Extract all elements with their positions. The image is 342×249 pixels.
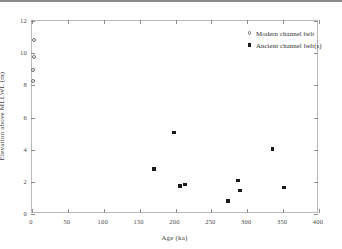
y-tick-label: 0	[13, 210, 27, 217]
y-tick-right	[314, 118, 318, 119]
y-tick-label: 12	[13, 17, 27, 24]
data-point	[183, 183, 186, 186]
data-point	[172, 131, 175, 134]
x-tick	[283, 209, 284, 213]
data-point	[152, 167, 155, 170]
x-tick	[176, 209, 177, 213]
x-tick-top	[176, 20, 177, 24]
y-tick-label: 2	[13, 177, 27, 184]
y-tick-right	[314, 150, 318, 151]
x-tick	[104, 209, 105, 213]
y-tick-label: 8	[13, 81, 27, 88]
figure-top-rule	[0, 0, 342, 2]
x-tick-label: 250	[205, 218, 215, 225]
x-tick-label: 0	[29, 218, 32, 225]
x-tick-top	[247, 20, 248, 24]
x-tick-label: 400	[313, 218, 323, 225]
open-circle-marker-icon	[243, 31, 256, 35]
x-tick-label: 350	[277, 218, 287, 225]
legend-item-modern-channel-belt: Modern channel belt	[243, 27, 335, 39]
x-tick-label: 300	[241, 218, 251, 225]
x-tick-label: 150	[133, 218, 143, 225]
y-tick-right	[314, 214, 318, 215]
y-tick	[31, 214, 35, 215]
x-tick-top	[68, 20, 69, 24]
y-tick-label: 10	[13, 49, 27, 56]
x-axis-title: Age (ka)	[31, 234, 318, 242]
y-tick-label: 6	[13, 113, 27, 120]
legend-item-label: Ancient channel belt(s)	[256, 42, 322, 49]
data-point	[271, 147, 274, 150]
y-tick	[31, 118, 35, 119]
x-tick-label: 50	[63, 218, 70, 225]
y-axis-title: Elevation above MLLWL (m)	[0, 72, 6, 161]
y-tick	[31, 21, 35, 22]
y-tick	[31, 53, 35, 54]
y-tick-right	[314, 21, 318, 22]
x-tick-label: 200	[169, 218, 179, 225]
x-tick-top	[104, 20, 105, 24]
y-tick	[31, 150, 35, 151]
data-point	[236, 179, 239, 182]
x-tick	[140, 209, 141, 213]
data-point	[32, 55, 36, 59]
y-tick-label: 4	[13, 145, 27, 152]
y-tick	[31, 182, 35, 183]
data-point	[32, 38, 36, 42]
chart-legend: Modern channel belt Ancient channel belt…	[243, 27, 335, 51]
x-tick-top	[140, 20, 141, 24]
legend-item-label: Modern channel belt	[256, 30, 314, 37]
filled-square-marker-icon	[243, 43, 256, 46]
data-point	[31, 68, 35, 72]
y-tick	[31, 85, 35, 86]
y-tick-right	[314, 53, 318, 54]
scatter-chart-figure: 050100150200250300350400 024681012 Age (…	[0, 0, 342, 249]
x-tick-label: 100	[98, 218, 108, 225]
y-tick-right	[314, 182, 318, 183]
data-point	[178, 184, 181, 187]
x-tick	[211, 209, 212, 213]
x-tick-top	[319, 20, 320, 24]
x-tick	[319, 209, 320, 213]
x-tick-top	[283, 20, 284, 24]
data-point	[31, 79, 35, 83]
y-tick-right	[314, 85, 318, 86]
data-point	[238, 189, 241, 192]
x-tick	[247, 209, 248, 213]
x-tick	[68, 209, 69, 213]
data-point	[282, 186, 285, 189]
legend-item-ancient-channel-belts: Ancient channel belt(s)	[243, 39, 335, 51]
data-point	[226, 199, 229, 202]
x-tick-top	[211, 20, 212, 24]
x-tick	[32, 209, 33, 213]
